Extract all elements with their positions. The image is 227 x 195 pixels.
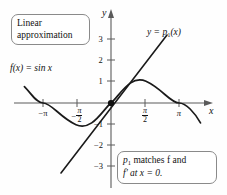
x-tick-label-minus-pi-over-2: −π2 [66, 107, 88, 124]
callout-matches-line1: p1 matches f and [123, 155, 211, 168]
fraction-denominator: 2 [76, 116, 82, 124]
x-axis-label: x [209, 105, 213, 116]
y-tick-label-minus-1: −1 [91, 119, 106, 129]
tangent-line-label: y = p1(x) [147, 27, 181, 38]
y-tick-label-minus-2: −2 [91, 140, 106, 150]
callout-matches-line2: f′ at x = 0. [123, 168, 211, 180]
y-tick-label-3: 3 [95, 34, 106, 44]
matches-text: matches f and [131, 155, 186, 165]
y-tick-label-minus-3: −3 [91, 161, 106, 171]
y-axis [108, 9, 114, 188]
y-tick-label-2: 2 [95, 55, 106, 65]
x-tick-label-pi: π [173, 108, 185, 118]
y-axis-label: y [102, 7, 106, 18]
tangent-label-prefix: y = p [147, 27, 167, 37]
callout-matches-note: p1 matches f and f′ at x = 0. [117, 151, 217, 184]
callout-linear-line1: Linear [17, 18, 84, 30]
fraction-denominator: 2 [142, 116, 148, 124]
y-tick-label-1: 1 [95, 76, 106, 86]
callout-linear-approximation: Linear approximation [11, 14, 90, 45]
fraction-pi-over-2: π2 [142, 107, 148, 124]
linear-approximation-figure: y x 3 2 1 −1 −2 −3 −π −π2 π2 π f(x) = si… [0, 0, 227, 195]
tangent-label-suffix: (x) [170, 27, 181, 37]
sine-curve-label: f(x) = sin x [10, 63, 52, 73]
callout-linear-line2: approximation [17, 30, 84, 42]
origin-point-marker [108, 100, 114, 106]
fraction-pi-over-2: π2 [76, 107, 82, 124]
x-tick-label-pi-over-2: π2 [136, 107, 154, 124]
x-tick-label-minus-pi: −π [34, 108, 52, 118]
